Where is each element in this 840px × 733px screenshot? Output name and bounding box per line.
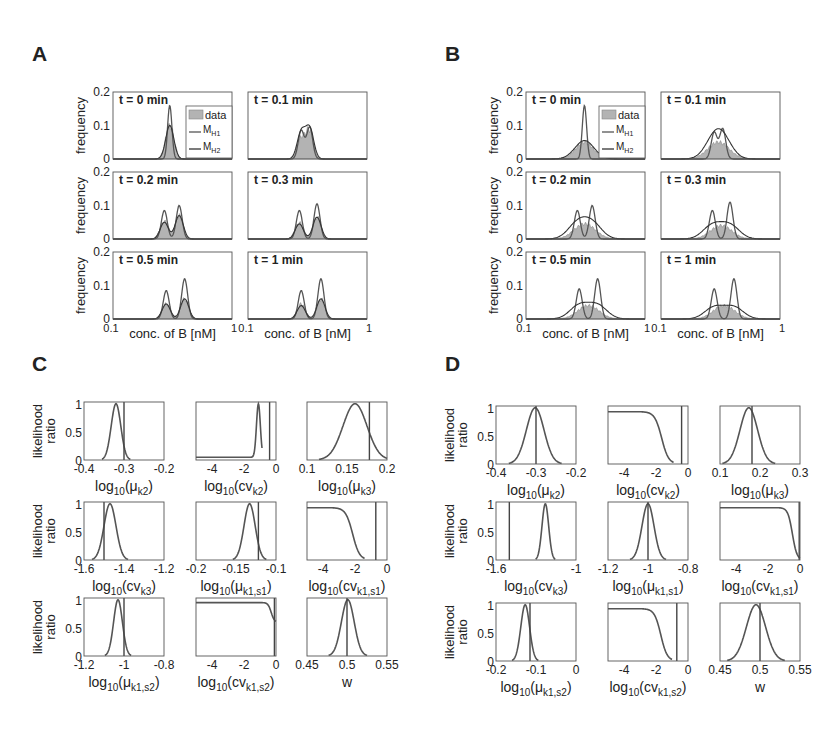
svg-text:-2: -2	[239, 658, 250, 672]
subplot-title: t = 0.1 min	[667, 93, 726, 107]
histogram-subplot: t = 0.5 min00.10.2frequency0.11conc. of …	[73, 245, 237, 341]
svg-text:0: 0	[75, 650, 82, 664]
histogram-subplot: t = 1 min0.11conc. of B [nM]	[651, 252, 785, 341]
svg-text:-0.1: -0.1	[526, 663, 547, 677]
svg-text:0: 0	[487, 554, 494, 568]
x-axis-label: log10(μk2)	[507, 482, 565, 501]
y-axis-label: frequency	[73, 176, 88, 234]
svg-text:0.2: 0.2	[379, 462, 396, 476]
svg-text:-4: -4	[207, 658, 218, 672]
likelihood-subplot: 0.450.50.55w	[295, 598, 399, 690]
svg-text:0.2: 0.2	[506, 85, 523, 99]
svg-text:-0.3: -0.3	[526, 466, 547, 480]
svg-text:0.2: 0.2	[506, 165, 523, 179]
svg-text:-0.2: -0.2	[186, 562, 207, 576]
svg-text:-1.2: -1.2	[154, 562, 175, 576]
x-axis-label: log10(cvk1,s1)	[721, 578, 798, 597]
svg-text:-2: -2	[239, 462, 250, 476]
svg-text:0.15: 0.15	[335, 462, 359, 476]
svg-text:0.5: 0.5	[477, 526, 494, 540]
svg-text:0: 0	[487, 458, 494, 472]
x-axis-label: log10(cvk1,s2)	[609, 679, 686, 698]
likelihood-subplot: -1.2-1-0.8log10(μk1,s1)	[598, 502, 699, 597]
svg-text:-4: -4	[619, 466, 630, 480]
svg-text:0.5: 0.5	[65, 526, 82, 540]
svg-text:-0.3: -0.3	[114, 462, 135, 476]
svg-text:0.5: 0.5	[477, 430, 494, 444]
subplot-title: t = 0.3 min	[667, 173, 726, 187]
likelihood-subplot: -1.6-1log10(cvk3)00.51likelihoodratio	[442, 498, 582, 597]
x-axis-label: conc. of B [nM]	[542, 326, 629, 341]
svg-text:1: 1	[75, 594, 82, 608]
svg-text:0.1: 0.1	[238, 322, 253, 334]
x-axis-label: w	[341, 674, 353, 690]
x-axis-label: log10(cvk2)	[616, 482, 680, 501]
svg-text:-1: -1	[119, 658, 130, 672]
svg-text:ratio: ratio	[455, 518, 470, 543]
svg-text:-2: -2	[763, 562, 774, 576]
x-axis-label: log10(μk1,s2)	[500, 679, 571, 698]
x-axis-label: log10(cvk3)	[92, 578, 156, 597]
x-axis-label: conc. of B [nM]	[264, 326, 351, 341]
x-axis-label: log10(μk2)	[95, 478, 153, 497]
x-axis-label: w	[754, 679, 766, 695]
svg-text:0: 0	[75, 454, 82, 468]
subplot-title: t = 0.5 min	[532, 253, 591, 267]
svg-text:-0.2: -0.2	[154, 462, 175, 476]
svg-text:0.5: 0.5	[477, 627, 494, 641]
svg-text:ratio: ratio	[455, 422, 470, 447]
histogram-subplot: t = 0.3 min	[248, 172, 367, 239]
svg-text:-1: -1	[643, 562, 654, 576]
y-axis-label: frequency	[486, 96, 501, 154]
svg-text:-4: -4	[207, 462, 218, 476]
figure-canvas: t = 0 min00.10.2frequencydataMH1MH2t = 0…	[0, 0, 840, 733]
svg-text:0: 0	[75, 554, 82, 568]
svg-text:0.1: 0.1	[93, 279, 110, 293]
svg-text:0: 0	[103, 232, 110, 246]
svg-text:-0.1: -0.1	[266, 562, 287, 576]
svg-text:0: 0	[573, 663, 580, 677]
x-axis-label: log10(cvk1,s2)	[197, 674, 274, 693]
svg-text:0: 0	[487, 655, 494, 669]
likelihood-subplot: 0.450.50.55w	[708, 603, 812, 695]
legend-data: data	[205, 109, 227, 121]
svg-text:1: 1	[231, 322, 237, 334]
likelihood-subplot: -4-20log10(cvk1,s2)	[196, 598, 280, 693]
svg-text:-0.15: -0.15	[222, 562, 250, 576]
subplot-title: t = 0.2 min	[119, 173, 178, 187]
svg-text:0.2: 0.2	[93, 245, 110, 259]
histogram-subplot: t = 0.2 min00.10.2frequency	[486, 165, 645, 246]
svg-text:0: 0	[273, 462, 280, 476]
svg-text:0.1: 0.1	[93, 199, 110, 213]
x-axis-label: log10(cvk1,s1)	[308, 578, 385, 597]
svg-text:0.2: 0.2	[752, 466, 769, 480]
y-axis-label: frequency	[73, 256, 88, 314]
histogram-subplot: t = 0 min00.10.2frequencydataMH1MH2	[486, 85, 645, 166]
svg-text:0.5: 0.5	[65, 426, 82, 440]
svg-text:-2: -2	[651, 466, 662, 480]
subplot-title: t = 1 min	[667, 253, 716, 267]
svg-text:0.2: 0.2	[93, 165, 110, 179]
likelihood-subplot: -4-20log10(cvk1,s2)	[608, 603, 692, 698]
subplot-title: t = 0.3 min	[254, 173, 313, 187]
svg-text:0.1: 0.1	[103, 322, 118, 334]
subplot-title: t = 1 min	[254, 253, 303, 267]
x-axis-label: log10(μk3)	[731, 482, 789, 501]
svg-text:0: 0	[384, 562, 391, 576]
subplot-title: t = 0.5 min	[119, 253, 178, 267]
svg-text:0.1: 0.1	[299, 462, 316, 476]
svg-text:-1.2: -1.2	[598, 562, 619, 576]
likelihood-subplot: -1.6-1.4-1.2log10(cvk3)00.51likelihoodra…	[30, 498, 175, 597]
y-axis-label: frequency	[486, 176, 501, 234]
svg-text:-2: -2	[651, 663, 662, 677]
svg-text:0: 0	[516, 232, 523, 246]
svg-text:0.1: 0.1	[712, 466, 729, 480]
likelihood-subplot: -4-20log10(cvk1,s1)	[720, 502, 804, 597]
svg-text:0.45: 0.45	[708, 663, 732, 677]
svg-text:0.2: 0.2	[93, 85, 110, 99]
svg-text:0: 0	[685, 466, 692, 480]
svg-text:ratio: ratio	[43, 518, 58, 543]
svg-text:ratio: ratio	[43, 614, 58, 639]
svg-text:-4: -4	[731, 562, 742, 576]
svg-text:1: 1	[487, 599, 494, 613]
